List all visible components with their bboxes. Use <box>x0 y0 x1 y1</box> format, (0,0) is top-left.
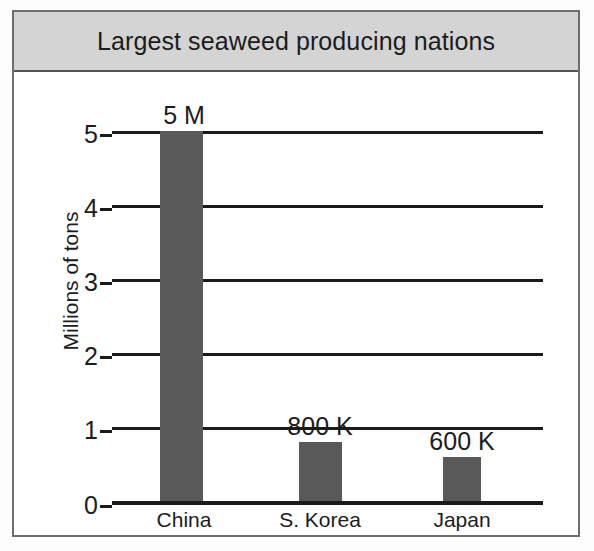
y-tick-label-4: 4 <box>84 196 98 221</box>
tick-mark-0 <box>100 505 112 508</box>
tick-mark-5 <box>100 134 112 137</box>
figure-frame: Largest seaweed producing nations Millio… <box>12 10 580 537</box>
bar-value-japan: 600 K <box>429 429 494 457</box>
y-tick-label-2: 2 <box>84 344 98 369</box>
y-axis-title: Millions of tons <box>59 181 83 381</box>
tick-mark-2 <box>100 356 112 359</box>
x-axis-label-japan: Japan <box>433 509 490 530</box>
y-tick-label-0: 0 <box>84 493 98 518</box>
chart-title-band: Largest seaweed producing nations <box>14 12 578 72</box>
x-axis-label-s-korea: S. Korea <box>279 509 361 530</box>
y-tick-label-1: 1 <box>84 418 98 443</box>
plot-area: 5 4 3 2 1 <box>112 131 543 501</box>
bar-japan <box>443 457 481 501</box>
tick-mark-3 <box>100 282 112 285</box>
tick-mark-1 <box>100 430 112 433</box>
y-tick-label-3: 3 <box>84 270 98 295</box>
x-axis-label-china: China <box>157 509 212 530</box>
chart-title: Largest seaweed producing nations <box>97 27 495 56</box>
bar-s-korea <box>299 442 342 501</box>
tick-mark-4 <box>100 208 112 211</box>
chart-body: Millions of tons 5 4 3 2 <box>14 74 578 537</box>
axis-baseline: 0 <box>112 501 543 505</box>
chart-screenshot: Largest seaweed producing nations Millio… <box>0 0 594 551</box>
bar-value-s-korea: 800 K <box>287 414 352 442</box>
y-tick-label-5: 5 <box>84 122 98 147</box>
bar-china <box>160 131 203 501</box>
bar-value-china: 5 M <box>163 103 205 131</box>
